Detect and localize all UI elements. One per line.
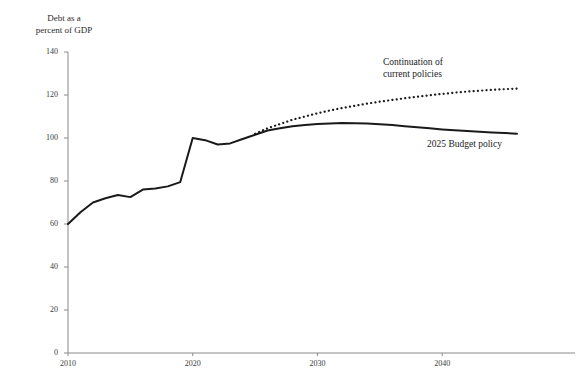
- y-tick-label: 0: [28, 348, 58, 357]
- x-tick-label: 2010: [48, 359, 88, 368]
- series-annotation-label: 2025 Budget policy: [427, 138, 502, 150]
- y-tick-label: 140: [28, 47, 58, 56]
- y-tick-label: 80: [28, 176, 58, 185]
- series-annotation-label: Continuation of current policies: [383, 56, 443, 80]
- chart-plot-area: [0, 0, 583, 389]
- y-tick-label: 100: [28, 133, 58, 142]
- y-tick-label: 40: [28, 262, 58, 271]
- y-tick-label: 60: [28, 219, 58, 228]
- x-tick-label: 2020: [173, 359, 213, 368]
- y-tick-label: 20: [28, 305, 58, 314]
- x-tick-label: 2030: [297, 359, 337, 368]
- chart-root: Debt as a percent of GDP 020406080100120…: [0, 0, 583, 389]
- x-tick-label: 2040: [422, 359, 462, 368]
- axes-group: [64, 52, 575, 356]
- y-tick-label: 120: [28, 90, 58, 99]
- data-series-group: [68, 89, 517, 224]
